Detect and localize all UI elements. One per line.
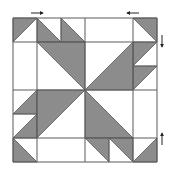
triangle-center-tl [37, 42, 85, 90]
triangle-tr-corner [133, 18, 157, 42]
quilt-diagram [0, 0, 172, 169]
triangle-bl-corner [13, 138, 37, 162]
triangle-center-tr [85, 42, 133, 90]
triangle-tl-corner [13, 18, 37, 42]
triangle-right-a [133, 42, 157, 66]
triangle-center-br [85, 90, 133, 138]
quilt-block-svg [0, 0, 172, 169]
triangle-top-a [37, 18, 61, 42]
triangle-top-b [61, 18, 85, 42]
triangle-br-corner [133, 138, 157, 162]
triangle-left-a [13, 90, 37, 114]
triangle-bottom-b [109, 138, 133, 162]
grid-lines [13, 18, 157, 162]
triangle-left-b [13, 114, 37, 138]
triangle-right-b [133, 66, 157, 90]
triangle-center-bl [37, 90, 85, 138]
triangle-bottom-a [85, 138, 109, 162]
